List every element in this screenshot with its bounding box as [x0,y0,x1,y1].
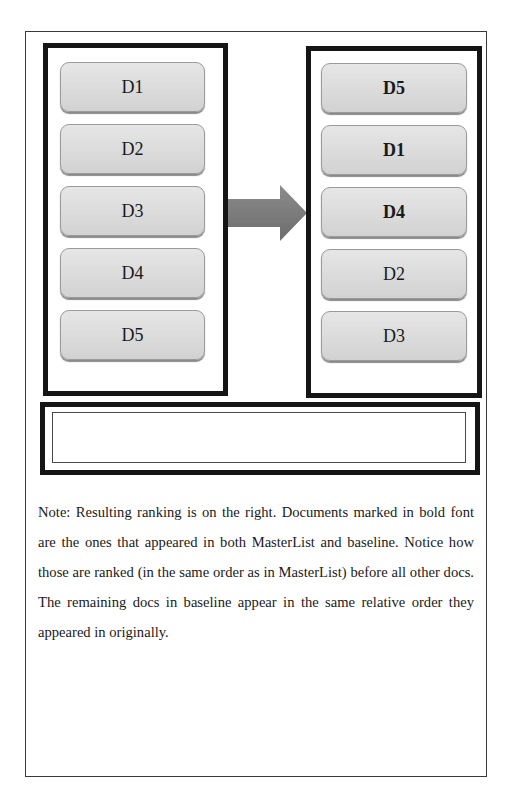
note-text: Note: Resulting ranking is on the right.… [38,497,474,647]
result-list-box: D5 D1 D4 D2 D3 [306,46,482,398]
baseline-list-box: D1 D2 D3 D4 D5 [43,43,228,396]
doc-item: D5 [60,310,205,360]
doc-item-bold: D4 [321,187,467,237]
doc-item: D2 [60,124,205,174]
doc-item-bold: D5 [321,63,467,113]
doc-item: D3 [321,311,467,361]
doc-item: D2 [321,249,467,299]
bottom-box-inner [52,412,466,463]
doc-item: D3 [60,186,205,236]
right-arrow-icon [228,185,308,241]
doc-item: D1 [60,62,205,112]
doc-item-bold: D1 [321,125,467,175]
doc-item: D4 [60,248,205,298]
